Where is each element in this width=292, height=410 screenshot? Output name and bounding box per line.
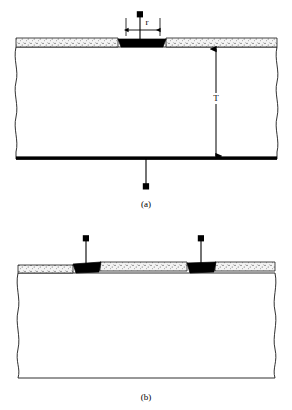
- panel-a-caption: (a): [141, 199, 151, 209]
- panel-a-stipple-layer-left: [16, 38, 118, 47]
- figure-cross-section-diagram: r T (a): [0, 0, 292, 410]
- panel-b-left-contact: [73, 262, 101, 273]
- panel-a-substrate-body: [15, 47, 278, 159]
- figure-canvas: r T (a): [0, 0, 292, 410]
- panel-a-top-lead-terminal: [137, 11, 143, 17]
- panel-a: r T (a): [15, 11, 278, 209]
- panel-a-r-dimension-label: r: [146, 17, 149, 27]
- panel-b-stipple-layer-right: [215, 262, 275, 271]
- panel-a-T-dimension-label: T: [213, 93, 219, 103]
- panel-b-left-lead-terminal: [83, 235, 89, 241]
- panel-b: (b): [17, 235, 276, 402]
- panel-b-substrate-body: [17, 273, 276, 378]
- panel-b-caption: (b): [141, 392, 152, 402]
- panel-a-top-contact: [118, 39, 166, 47]
- panel-b-right-lead-terminal: [198, 235, 204, 241]
- panel-b-stipple-layer-left: [18, 265, 73, 273]
- panel-b-stipple-layer-middle: [100, 262, 187, 271]
- panel-a-stipple-layer-right: [166, 38, 277, 47]
- panel-a-bottom-lead-terminal: [143, 183, 149, 189]
